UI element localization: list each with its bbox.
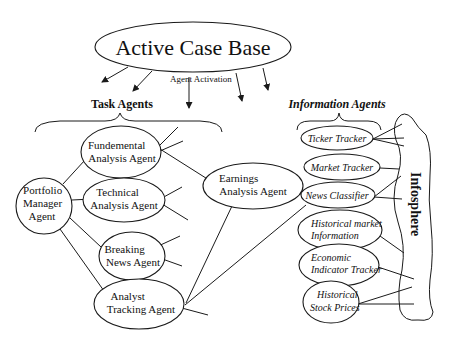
svg-text:Fundemental Analysis Age: Fundemental Analysis Agent: [88, 139, 156, 164]
fundemental-label-line2: Analysis Agent: [88, 152, 156, 164]
active-case-base-label: Active Case Base: [115, 35, 270, 60]
economic-label-line1: Economic: [310, 252, 352, 263]
economic-label-line2: Indicator Tracker: [310, 264, 382, 275]
activation-arrow: [102, 67, 128, 82]
fundemental-analysis-agent-node: Fundemental Analysis Agent: [81, 126, 161, 178]
ticker-tracker-node: Ticker Tracker: [301, 126, 373, 150]
breaking-news-agent-node: Breaking News Agent: [99, 232, 165, 280]
portfolio-manager-agent-node: Portfolio Manager Agent: [16, 178, 72, 234]
ticker-tracker-label: Ticker Tracker: [308, 133, 367, 144]
analyst-tracking-agent-node: Analyst Tracking Agent: [94, 279, 184, 329]
task-agents-heading: Task Agents: [91, 97, 153, 111]
agent-architecture-diagram: Active Case Base Agent Activation Task A…: [0, 0, 449, 338]
active-case-base-node: Active Case Base: [95, 22, 291, 72]
activation-arrow: [263, 68, 268, 90]
earnings-label-line1: Earnings: [219, 172, 258, 184]
stock-prices-label-line2: Stock Prices: [310, 302, 360, 313]
historical-market-label-line2: Information: [310, 230, 359, 241]
portfolio-label-line2: Manager: [23, 197, 62, 209]
technical-analysis-agent-node: Technical Analysis Agent: [83, 178, 165, 222]
fundemental-label-line1: Fundemental: [88, 139, 145, 151]
news-classifier-node: News Classifier: [301, 182, 375, 208]
activation-arrow: [133, 71, 152, 91]
market-tracker-label: Market Tracker: [310, 162, 374, 173]
breaking-label-line2: News Agent: [106, 256, 160, 268]
infosphere-label: Infosphere: [408, 172, 423, 236]
activation-arrow: [236, 73, 242, 101]
agent-activation-label: Agent Activation: [170, 74, 232, 84]
stock-prices-label-line1: Historical: [316, 289, 358, 300]
information-agents-heading: Information Agents: [287, 97, 386, 111]
portfolio-label-line1: Portfolio: [23, 184, 63, 196]
breaking-label-line1: Breaking: [104, 243, 145, 255]
earnings-label-line2: Analysis Agent: [219, 185, 287, 197]
analyst-label-line2: Tracking Agent: [107, 303, 175, 315]
economic-indicator-tracker-node: Economic Indicator Tracker: [299, 244, 382, 286]
technical-label-line2: Analysis Agent: [90, 199, 158, 211]
historical-stock-prices-node: Historical Stock Prices: [303, 281, 360, 323]
market-tracker-node: Market Tracker: [304, 154, 380, 180]
earnings-analysis-agent-node: Earnings Analysis Agent: [203, 163, 303, 209]
news-classifier-label: News Classifier: [304, 190, 368, 201]
technical-label-line1: Technical: [96, 186, 139, 198]
historical-market-label-line1: Historical market: [310, 218, 382, 229]
portfolio-label-line3: Agent: [29, 210, 56, 222]
analyst-label-line1: Analyst: [111, 290, 145, 302]
